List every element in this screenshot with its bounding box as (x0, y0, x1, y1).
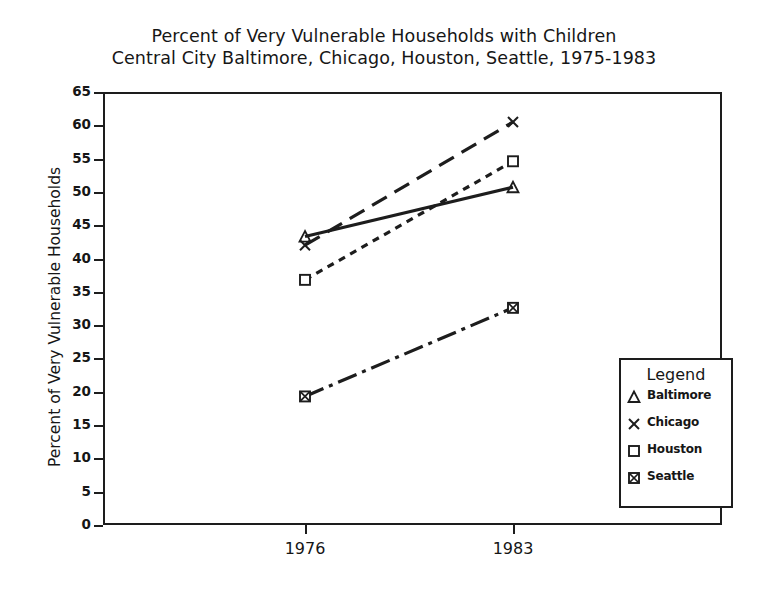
y-axis-tick-mark (94, 525, 103, 527)
x-axis-tick-label: 1983 (468, 539, 558, 558)
y-axis-tick-mark (94, 325, 103, 327)
legend-label: Baltimore (647, 388, 711, 402)
y-axis-tick-mark (94, 259, 103, 261)
legend-item-seattle[interactable]: Seattle (621, 467, 731, 494)
x-axis-tick-mark (305, 525, 307, 534)
y-axis-tick-mark (94, 358, 103, 360)
y-axis-tick-label: 25 (51, 349, 91, 365)
legend-marker-crossed-square-icon (627, 471, 641, 485)
y-axis-tick-label: 20 (51, 383, 91, 399)
y-axis-tick-mark (94, 159, 103, 161)
data-point-marker-crossed-square (629, 473, 639, 483)
y-axis-tick-label: 15 (51, 416, 91, 432)
legend-item-chicago[interactable]: Chicago (621, 413, 731, 440)
y-axis-tick-mark (94, 492, 103, 494)
chart-title: Percent of Very Vulnerable Households wi… (0, 26, 768, 48)
y-axis-tick-mark (94, 292, 103, 294)
y-axis-tick-label: 10 (51, 449, 91, 465)
chart-legend[interactable]: Legend BaltimoreChicagoHoustonSeattle (619, 358, 733, 508)
y-axis-tick-label: 40 (51, 250, 91, 266)
y-axis-tick-label: 65 (51, 83, 91, 99)
chart-figure: Percent of Very Vulnerable Households wi… (0, 0, 768, 591)
chart-subtitle: Central City Baltimore, Chicago, Houston… (0, 48, 768, 70)
y-axis-tick-mark (94, 125, 103, 127)
y-axis-tick-mark (94, 425, 103, 427)
y-axis-tick-mark (94, 392, 103, 394)
legend-title: Legend (621, 365, 731, 384)
data-point-marker-square (629, 446, 639, 456)
legend-item-houston[interactable]: Houston (621, 440, 731, 467)
x-axis-tick-mark (513, 525, 515, 534)
legend-label: Houston (647, 442, 702, 456)
data-point-marker-triangle (629, 392, 640, 403)
x-axis-tick-label: 1976 (260, 539, 350, 558)
y-axis-tick-mark (94, 458, 103, 460)
y-axis-tick-label: 55 (51, 150, 91, 166)
y-axis-tick-mark (94, 92, 103, 94)
legend-label: Chicago (647, 415, 699, 429)
legend-marker-x-icon (627, 417, 641, 431)
y-axis-tick-label: 35 (51, 283, 91, 299)
y-axis-tick-mark (94, 192, 103, 194)
y-axis-tick-mark (94, 225, 103, 227)
y-axis-tick-label: 60 (51, 116, 91, 132)
legend-marker-triangle-icon (627, 390, 641, 404)
legend-item-baltimore[interactable]: Baltimore (621, 386, 731, 413)
y-axis-tick-label: 50 (51, 183, 91, 199)
data-point-marker-x (629, 419, 639, 429)
y-axis-tick-label: 0 (51, 516, 91, 532)
y-axis-tick-label: 45 (51, 216, 91, 232)
legend-entries: BaltimoreChicagoHoustonSeattle (621, 386, 731, 494)
legend-marker-square-icon (627, 444, 641, 458)
chart-title-block: Percent of Very Vulnerable Households wi… (0, 26, 768, 69)
y-axis-tick-label: 30 (51, 316, 91, 332)
y-axis-tick-label: 5 (51, 483, 91, 499)
legend-label: Seattle (647, 469, 694, 483)
